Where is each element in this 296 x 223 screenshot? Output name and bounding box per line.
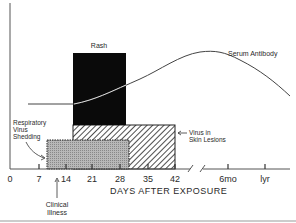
tick-label: lyr — [260, 174, 270, 184]
rash-label: Rash — [91, 42, 107, 49]
skin-lesions-label: Virus in Skin Lesions — [189, 129, 227, 143]
x-axis-title: DAYS AFTER EXPOSURE — [110, 186, 227, 196]
serum-antibody-curve — [28, 51, 290, 104]
svg-text:Illness: Illness — [47, 209, 67, 216]
tick-label: 6mo — [219, 174, 237, 184]
tick-label: 21 — [87, 174, 97, 184]
svg-text:Virus in: Virus in — [189, 129, 211, 136]
svg-text:Clinical: Clinical — [46, 201, 69, 208]
clinical-illness-label: Clinical Illness — [46, 201, 69, 216]
tick-label: 42 — [170, 174, 180, 184]
tick-label: 28 — [115, 174, 125, 184]
tick-label: 14 — [61, 174, 71, 184]
svg-text:Skin Lesions: Skin Lesions — [189, 136, 227, 143]
serum-antibody-label: Serum Antibody — [228, 50, 278, 58]
tick-label: 7 — [36, 174, 41, 184]
svg-text:Virus: Virus — [13, 126, 28, 133]
chart: 0 7 14 21 28 35 42 6mo lyr DAYS AFTER EX… — [0, 0, 296, 223]
respiratory-label: Respiratory Virus Shedding — [13, 119, 47, 141]
respiratory-shedding-bar — [47, 140, 129, 169]
tick-label: 0 — [7, 174, 12, 184]
svg-text:Shedding: Shedding — [13, 133, 41, 141]
tick-label: 35 — [143, 174, 153, 184]
